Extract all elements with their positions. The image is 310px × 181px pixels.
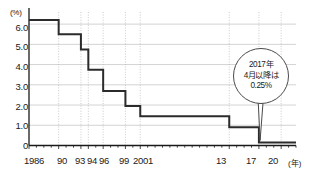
x-tick-label-13: 13	[209, 155, 233, 166]
x-tick-label-20: 20	[261, 155, 285, 166]
callout-line-1: 2017年	[232, 60, 290, 71]
x-tick-label-17: 17	[239, 155, 263, 166]
interest-rate-step-chart: (%) 6.0 5.0 4.0 3.0 2.0 1.0 0 1986 90 93…	[0, 0, 310, 181]
callout-line-2: 4月以降は	[232, 71, 290, 82]
x-tick-label-2001: 2001	[126, 155, 160, 166]
x-tick-label-1986: 1986	[14, 155, 54, 166]
x-axis-unit-label: (年)	[288, 157, 301, 168]
callout-line-3: 0.25%	[232, 81, 290, 92]
